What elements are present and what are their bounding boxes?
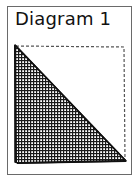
triangle-left-edge [15, 45, 16, 162]
diagram-figure [0, 0, 139, 182]
